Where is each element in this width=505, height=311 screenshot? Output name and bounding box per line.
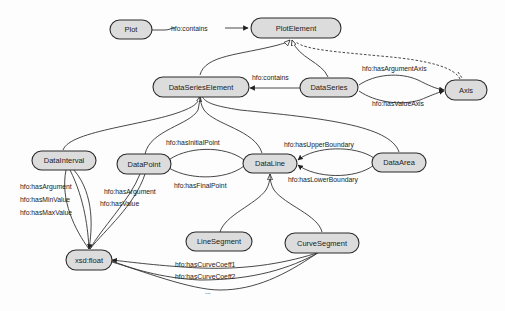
edge-label: ... xyxy=(205,288,211,295)
node-data-area[interactable]: DataArea xyxy=(372,153,426,172)
diagram-svg: hfo:contains hfo:contains hfo:hasArgumen… xyxy=(0,0,505,311)
edge-label: hfo:hasFinalPoint xyxy=(174,182,227,189)
edge-label: hfo:hasMaxValue xyxy=(20,209,72,216)
edge-label: hfo:contains xyxy=(252,74,289,81)
edge-label: hfo:contains xyxy=(171,25,208,32)
edge-label: hfo:hasCurveCoeff1 xyxy=(175,261,236,268)
edge-label: hfo:hasValue xyxy=(100,200,139,207)
node-label: DataArea xyxy=(383,158,416,167)
node-label: Plot xyxy=(125,25,139,34)
edge-label: hfo:hasValueAxis xyxy=(372,100,425,107)
edge-label: hfo:hasCurveCoeff2 xyxy=(175,273,236,280)
edge-label: hfo:hasArgumentAxis xyxy=(362,65,427,73)
node-label: DataSeriesElement xyxy=(169,83,235,92)
edge-label: hfo:hasArgument xyxy=(104,188,156,196)
node-plot[interactable]: Plot xyxy=(110,20,152,39)
node-data-line[interactable]: DataLine xyxy=(243,154,297,173)
edge-series-contains: hfo:contains xyxy=(250,74,301,88)
node-line-segment[interactable]: LineSegment xyxy=(186,232,252,251)
node-label: xsd:float xyxy=(75,256,104,265)
node-label: CurveSegment xyxy=(297,239,348,248)
node-label: DataPoint xyxy=(128,160,162,169)
edge-subclass-dse-plotelement xyxy=(200,40,290,75)
edge-subclass-axis-plotelement xyxy=(296,42,460,79)
node-label: DataLine xyxy=(255,159,285,168)
node-plot-element[interactable]: PlotElement xyxy=(251,18,341,38)
edge-label: hfo:hasLowerBoundary xyxy=(288,176,359,184)
edge-label: hfo:hasInitialPoint xyxy=(166,139,220,146)
node-data-point[interactable]: DataPoint xyxy=(117,154,171,174)
ontology-diagram: hfo:contains hfo:contains hfo:hasArgumen… xyxy=(0,0,505,311)
node-curve-segment[interactable]: CurveSegment xyxy=(285,233,359,253)
node-label: DataSeries xyxy=(310,83,347,92)
node-data-series-element[interactable]: DataSeriesElement xyxy=(153,77,249,97)
edge-subclass-series-plotelement xyxy=(292,40,328,77)
edge-series-axis: hfo:hasArgumentAxis hfo:hasValueAxis xyxy=(359,65,444,107)
edge-curve-float: hfo:hasCurveCoeff1 hfo:hasCurveCoeff2 ..… xyxy=(112,252,320,295)
edge-line-point: hfo:hasInitialPoint hfo:hasFinalPoint xyxy=(166,139,244,189)
node-data-interval[interactable]: DataInterval xyxy=(32,151,96,170)
edge-label: hfo:hasUpperBoundary xyxy=(284,141,355,149)
node-axis[interactable]: Axis xyxy=(445,80,487,100)
node-data-series[interactable]: DataSeries xyxy=(300,78,358,97)
edge-interval-float: hfo:hasArgument hfo:hasMinValue hfo:hasM… xyxy=(20,170,91,249)
edge-plot-contains: hfo:contains xyxy=(151,25,248,32)
node-label: LineSegment xyxy=(197,237,242,246)
edge-label: hfo:hasArgument xyxy=(20,183,72,191)
node-label: Axis xyxy=(459,86,473,95)
edge-point-float: hfo:hasArgument hfo:hasValue xyxy=(90,174,156,249)
node-xsd-float[interactable]: xsd:float xyxy=(66,250,112,270)
node-label: DataInterval xyxy=(44,156,85,165)
edge-label: hfo:hasMinValue xyxy=(20,196,70,203)
node-label: PlotElement xyxy=(276,24,317,33)
